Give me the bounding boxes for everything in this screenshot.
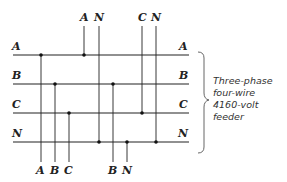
junction-dot <box>140 111 144 115</box>
top-label-n: N <box>93 11 105 24</box>
junction-dot <box>53 82 57 86</box>
top-label-n2: N <box>150 11 162 24</box>
top-label-a: A <box>79 11 89 24</box>
junction-dot <box>82 53 86 57</box>
bus-label-right-n: N <box>177 127 189 140</box>
bus-label-right-a: A <box>178 40 188 53</box>
brace-icon <box>198 52 209 153</box>
top-label-c: C <box>138 11 147 24</box>
annotation-line-4: feeder <box>213 111 245 122</box>
bus-label-left-b: B <box>11 69 21 82</box>
bus-label-right-c: C <box>179 98 188 111</box>
junction-dot <box>97 140 101 144</box>
bus-label-left-a: A <box>11 40 21 53</box>
bus-label-right-b: B <box>178 69 188 82</box>
junction-dots <box>39 53 158 144</box>
bus-label-left-c: C <box>12 98 21 111</box>
junction-dot <box>111 82 115 86</box>
bottom-label-b2: B <box>107 164 117 177</box>
annotation-line-3: 4160-volt <box>213 99 260 110</box>
junction-dot <box>125 140 129 144</box>
bottom-label-c: C <box>64 164 73 177</box>
junction-dot <box>154 140 158 144</box>
bottom-label-n: N <box>121 164 133 177</box>
annotation-line-2: four-wire <box>213 87 255 98</box>
bottom-label-b: B <box>49 164 59 177</box>
annotation-line-1: Three-phase <box>213 75 273 86</box>
junction-dot <box>39 53 43 57</box>
feeder-diagram: A B C N A B C N A N C N A B C B N Three-… <box>0 0 287 182</box>
bottom-label-a: A <box>35 164 45 177</box>
bus-label-left-n: N <box>11 127 23 140</box>
bus-lines <box>13 55 189 142</box>
junction-dot <box>67 111 71 115</box>
